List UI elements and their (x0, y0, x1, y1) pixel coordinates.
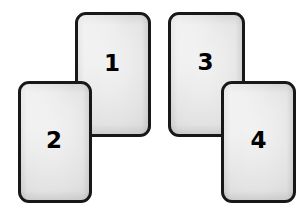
card-4-number: 4 (250, 129, 266, 152)
card-4[interactable]: 4 (221, 81, 296, 203)
card-3-number: 3 (197, 51, 213, 74)
card-1-number: 1 (104, 52, 120, 75)
card-layout-canvas: 1 2 3 4 (0, 0, 308, 216)
card-2-number: 2 (46, 129, 62, 152)
card-2[interactable]: 2 (18, 81, 92, 203)
